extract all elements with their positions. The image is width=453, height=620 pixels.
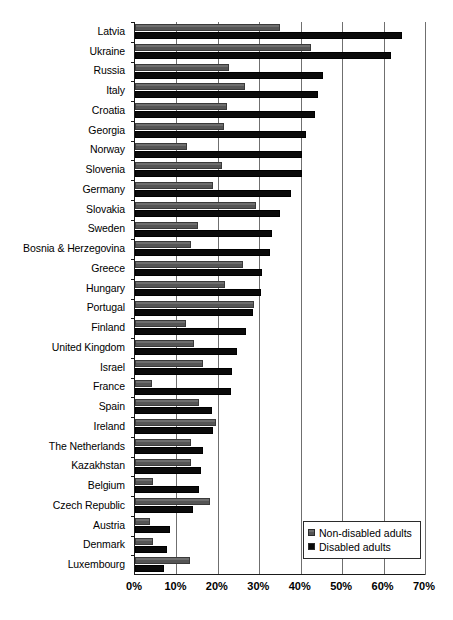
bar-group [135,141,424,161]
bar-disabled-adults [135,467,201,474]
bar-disabled-adults [135,111,315,118]
axis-tick [131,378,135,379]
bar-non-disabled-adults [135,261,243,268]
category-label: Germany [0,184,125,195]
bar-non-disabled-adults [135,439,191,446]
category-label: Norway [0,144,125,155]
category-label: Slovenia [0,164,125,175]
bar-non-disabled-adults [135,518,150,525]
value-axis-tick-label: 10% [155,580,195,593]
bar-non-disabled-adults [135,103,227,110]
value-axis-tick-label: 70% [404,580,444,593]
value-axis-tick-label: 40% [280,580,320,593]
bar-disabled-adults [135,447,203,454]
chart-legend: Non-disabled adults Disabled adults [303,521,421,559]
category-label: Belgium [0,480,125,491]
bar-group [135,22,424,42]
value-axis-tick-label: 30% [238,580,278,593]
axis-tick [131,220,135,221]
bar-group [135,338,424,358]
bar-disabled-adults [135,526,170,533]
bar-group [135,180,424,200]
value-axis-line [134,574,425,575]
axis-tick [131,318,135,319]
axis-tick [131,397,135,398]
axis-tick [131,81,135,82]
category-label: The Netherlands [0,441,125,452]
category-label: Latvia [0,26,125,37]
bar-group [135,318,424,338]
bar-group [135,358,424,378]
bar-group [135,220,424,240]
category-label: Bosnia & Herzegovina [0,243,125,254]
bar-disabled-adults [135,91,318,98]
bar-group [135,121,424,141]
bar-disabled-adults [135,486,199,493]
category-label: Greece [0,263,125,274]
bar-non-disabled-adults [135,459,191,466]
bar-disabled-adults [135,328,246,335]
category-label: Sweden [0,223,125,234]
bar-non-disabled-adults [135,419,216,426]
bar-non-disabled-adults [135,478,153,485]
bar-group [135,496,424,516]
bar-disabled-adults [135,210,280,217]
bar-disabled-adults [135,348,237,355]
category-label: Italy [0,85,125,96]
category-label: United Kingdom [0,342,125,353]
category-label: Israel [0,362,125,373]
bar-non-disabled-adults [135,498,210,505]
bar-non-disabled-adults [135,399,199,406]
category-label: Portugal [0,302,125,313]
axis-tick [131,496,135,497]
bar-non-disabled-adults [135,241,191,248]
bar-disabled-adults [135,407,212,414]
axis-tick [131,358,135,359]
axis-tick [131,259,135,260]
bar-non-disabled-adults [135,24,280,31]
bar-group [135,299,424,319]
axis-tick [131,42,135,43]
legend-item-disabled-adults: Disabled adults [308,540,416,553]
category-label: Russia [0,65,125,76]
bar-disabled-adults [135,565,164,572]
bar-disabled-adults [135,546,167,553]
category-axis: LatviaUkraineRussiaItalyCroatiaGeorgiaNo… [0,22,130,575]
axis-tick [131,437,135,438]
category-label: Georgia [0,125,125,136]
category-label: Finland [0,322,125,333]
value-axis-tick-label: 20% [197,580,237,593]
bar-group [135,42,424,62]
category-label: Slovakia [0,204,125,215]
bar-non-disabled-adults [135,123,224,130]
bar-non-disabled-adults [135,64,229,71]
bar-non-disabled-adults [135,538,153,545]
bar-non-disabled-adults [135,320,186,327]
category-label: Czech Republic [0,500,125,511]
bar-non-disabled-adults [135,222,198,229]
bar-group [135,378,424,398]
bar-group [135,437,424,457]
bar-non-disabled-adults [135,340,194,347]
bar-disabled-adults [135,230,272,237]
bar-disabled-adults [135,52,391,59]
bar-non-disabled-adults [135,281,225,288]
axis-tick [131,338,135,339]
bar-group [135,279,424,299]
bar-group [135,81,424,101]
axis-tick [131,22,135,23]
gridline [425,22,426,575]
bar-disabled-adults [135,368,232,375]
bar-non-disabled-adults [135,44,311,51]
bar-non-disabled-adults [135,83,245,90]
bar-disabled-adults [135,289,261,296]
bar-group [135,62,424,82]
bar-disabled-adults [135,131,306,138]
bar-chart: LatviaUkraineRussiaItalyCroatiaGeorgiaNo… [0,0,453,620]
gray-square-icon [308,529,315,536]
legend-label-non-disabled-adults: Non-disabled adults [319,527,412,539]
bar-disabled-adults [135,32,402,39]
bar-disabled-adults [135,427,213,434]
axis-tick [131,279,135,280]
legend-item-non-disabled-adults: Non-disabled adults [308,526,416,539]
